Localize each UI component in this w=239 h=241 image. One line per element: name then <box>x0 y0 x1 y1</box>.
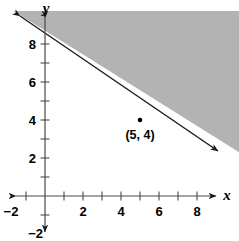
x-tick-label-6: 6 <box>155 204 162 219</box>
x-tick-label-4: 4 <box>117 204 125 219</box>
test-point-marker <box>138 118 143 123</box>
y-axis-label: y <box>41 0 50 16</box>
x-axis-label: x <box>222 187 231 203</box>
y-tick-label-2: 2 <box>29 151 36 166</box>
x-tick-label-8: 8 <box>193 204 200 219</box>
y-tick-label-6: 6 <box>29 75 36 90</box>
y-tick-label-neg2: −2 <box>28 226 43 241</box>
x-axis <box>16 192 216 201</box>
x-tick-label-neg2: −2 <box>4 204 19 219</box>
coordinate-plane-svg: 8 6 4 2 −2 −2 2 4 6 8 x y (5, 4) <box>0 0 239 241</box>
y-tick-label-8: 8 <box>29 37 36 52</box>
linear-inequality-graph: 8 6 4 2 −2 −2 2 4 6 8 x y (5, 4) <box>0 0 239 241</box>
x-tick-label-2: 2 <box>79 204 86 219</box>
y-tick-label-4: 4 <box>29 113 37 128</box>
test-point-label: (5, 4) <box>125 128 154 142</box>
y-axis <box>41 18 50 232</box>
